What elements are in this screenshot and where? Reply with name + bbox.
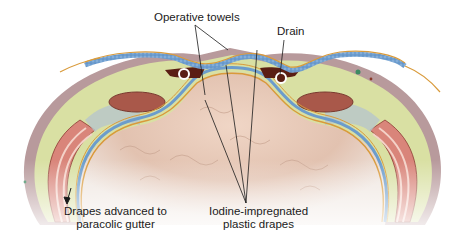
rectus-muscle-right bbox=[297, 92, 353, 112]
label-iodine-drapes: Iodine-impregnated plastic drapes bbox=[209, 205, 308, 231]
surgical-drape-diagram: Operative towels Drain Drapes advanced t… bbox=[0, 0, 465, 241]
label-drapes-advanced: Drapes advanced to paracolic gutter bbox=[64, 205, 167, 231]
label-operative-towels: Operative towels bbox=[154, 11, 240, 24]
drain-left bbox=[179, 69, 189, 79]
drain-right bbox=[276, 73, 286, 83]
label-drain: Drain bbox=[277, 25, 304, 38]
